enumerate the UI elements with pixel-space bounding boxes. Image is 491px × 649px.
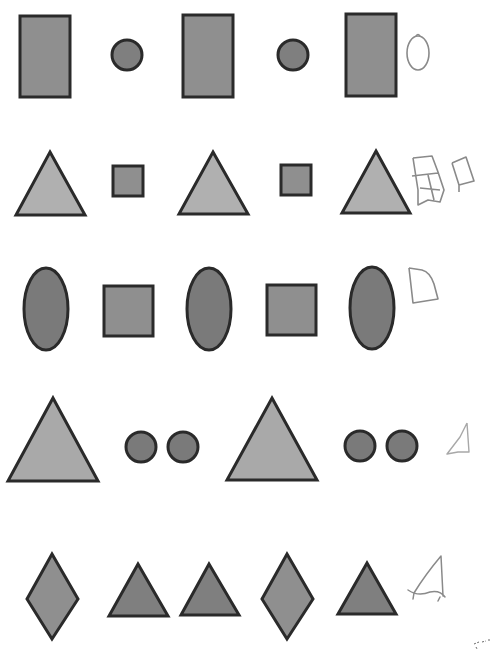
circle-shape: [126, 432, 156, 462]
square-shape: [281, 165, 311, 195]
oval-shape: [350, 267, 394, 349]
rectangle-shape: [183, 15, 233, 97]
diamond-shape: [27, 554, 78, 639]
pattern-row-4: [8, 398, 469, 481]
diamond-shape: [262, 554, 313, 639]
triangle-shape: [181, 564, 239, 615]
scan-artifact-mark: [474, 640, 491, 649]
pattern-row-5: [27, 554, 445, 639]
triangle-shape: [16, 152, 85, 215]
triangle-shape: [8, 398, 98, 481]
pattern-row-1: [20, 14, 429, 97]
rectangle-shape: [346, 14, 396, 96]
answer-sketch-square: [452, 157, 474, 192]
triangle-shape: [109, 564, 168, 616]
circle-shape: [387, 431, 417, 461]
triangle-shape: [342, 151, 410, 213]
triangle-shape: [227, 398, 317, 480]
square-shape: [113, 166, 143, 196]
answer-sketch-oval: [407, 36, 429, 70]
circle-shape: [112, 40, 142, 70]
circle-shape: [278, 40, 308, 70]
square-shape: [267, 285, 316, 335]
answer-sketch-triangle: [408, 556, 445, 601]
rectangle-shape: [20, 16, 70, 97]
circle-shape: [168, 432, 198, 462]
pattern-row-2: [16, 151, 474, 215]
answer-sketch-triangle: [447, 423, 469, 454]
answer-sketch-square-scribble: [412, 156, 444, 205]
pattern-row-3: [24, 267, 438, 350]
oval-shape: [187, 268, 231, 350]
oval-shape: [24, 268, 68, 350]
pattern-worksheet: [0, 0, 491, 649]
triangle-shape: [179, 152, 248, 214]
square-shape: [104, 286, 153, 336]
answer-sketch-square: [409, 268, 438, 303]
triangle-shape: [338, 563, 396, 614]
circle-shape: [345, 431, 375, 461]
